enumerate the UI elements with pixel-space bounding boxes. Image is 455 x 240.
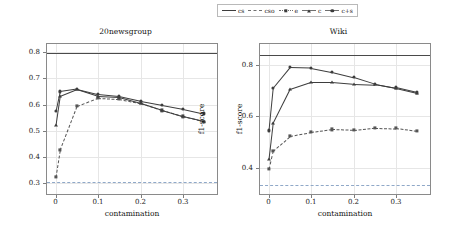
x-axis-tick xyxy=(141,195,142,198)
data-point-e xyxy=(267,167,270,170)
x-tick-label: 0 xyxy=(53,198,57,206)
reference-line-cso xyxy=(260,185,430,186)
x-axis-title-left: contamination xyxy=(46,209,218,218)
data-point-e xyxy=(352,129,355,132)
series-segment-e xyxy=(332,129,353,131)
data-point-c+s xyxy=(267,129,270,132)
triangle-marker-icon xyxy=(302,7,316,15)
x-tick-label: 0 xyxy=(266,198,270,206)
y-tick-label: 0.3 xyxy=(29,179,40,187)
series-segment-e xyxy=(290,132,311,137)
legend-item-c-plus-s: c+s xyxy=(325,7,352,15)
series-segment-c xyxy=(290,82,312,90)
gridline-vertical xyxy=(98,44,99,194)
series-segment-c xyxy=(311,82,332,83)
series-segment-c+s xyxy=(311,68,332,73)
series-segment-c xyxy=(272,89,290,123)
data-point-c+s xyxy=(58,90,61,93)
legend-label-c-plus-s: c+s xyxy=(341,8,352,14)
square-marker-icon xyxy=(279,7,293,15)
series-segment-e xyxy=(375,128,396,130)
legend-label-cs: cs xyxy=(238,8,244,14)
chart-legend: cs cso e c c+s xyxy=(217,4,358,17)
x-axis-title-right: contamination xyxy=(259,209,431,218)
y-axis-labels-left: 0.30.40.50.60.70.8 xyxy=(18,43,43,195)
data-point-c+s xyxy=(288,65,291,68)
series-segment-e xyxy=(77,98,99,107)
legend-label-cso: cso xyxy=(264,8,274,14)
x-axis-tick xyxy=(98,195,99,198)
y-tick-label: 0.5 xyxy=(29,127,40,135)
series-segment-c+s xyxy=(290,67,311,69)
series-segment-e xyxy=(98,98,119,100)
gridline-horizontal xyxy=(47,105,217,106)
data-point-e xyxy=(75,105,78,108)
legend-item-cso: cso xyxy=(248,7,274,15)
series-segment-e xyxy=(311,129,332,133)
series-segment-c xyxy=(162,110,184,117)
x-tick-label: 0.3 xyxy=(390,198,401,206)
data-point-c xyxy=(271,121,275,124)
y-tick-label: 0.6 xyxy=(29,101,40,109)
gridline-horizontal xyxy=(260,65,430,66)
data-point-e xyxy=(373,126,376,129)
x-axis-tick xyxy=(396,195,397,198)
gridline-horizontal xyxy=(47,131,217,132)
dashed-line-icon xyxy=(248,7,262,15)
data-point-c xyxy=(309,80,313,83)
series-segment-c+s xyxy=(162,105,183,110)
data-point-e xyxy=(58,148,61,151)
x-tick-label: 0.2 xyxy=(348,198,359,206)
y-tick-label: 0.7 xyxy=(29,74,40,82)
data-point-e xyxy=(288,134,291,137)
x-axis-tick xyxy=(183,195,184,198)
data-point-c xyxy=(288,88,292,91)
y-tick-label: 0.8 xyxy=(29,48,40,56)
x-tick-label: 0.3 xyxy=(177,198,188,206)
series-segment-e xyxy=(272,136,290,151)
series-segment-c+s xyxy=(272,67,290,88)
series-segment-e xyxy=(353,128,374,131)
data-point-c+s xyxy=(271,86,274,89)
series-segment-c+s xyxy=(332,72,353,78)
chart-title-left: 20newsgroup xyxy=(18,27,233,36)
x-axis-tick xyxy=(56,195,57,198)
x-tick-label: 0.1 xyxy=(305,198,316,206)
y-tick-label: 0.4 xyxy=(242,164,253,172)
solid-line-icon xyxy=(222,7,236,15)
data-point-c xyxy=(54,124,58,127)
series-segment-e xyxy=(396,128,417,132)
data-point-e xyxy=(394,127,397,130)
gridline-horizontal xyxy=(47,157,217,158)
x-axis-tick xyxy=(354,195,355,198)
gridline-vertical xyxy=(396,44,397,194)
chart-panel-wiki: Wiki 0.40.60.8 00.10.20.3 contamination … xyxy=(231,25,446,237)
y-axis-title-right: f1-score xyxy=(235,104,244,135)
gridline-vertical xyxy=(354,44,355,194)
y-axis-title-left: f1-score xyxy=(197,104,206,135)
x-tick-label: 0.1 xyxy=(92,198,103,206)
gridline-horizontal xyxy=(260,168,430,169)
y-tick-label: 0.4 xyxy=(29,153,40,161)
data-point-e xyxy=(309,131,312,134)
data-point-e xyxy=(54,175,57,178)
legend-item-cs: cs xyxy=(222,7,244,15)
x-axis-labels-right: 00.10.20.3 xyxy=(259,195,431,209)
x-axis-labels-left: 00.10.20.3 xyxy=(46,195,218,209)
data-point-e xyxy=(271,149,274,152)
gridline-vertical xyxy=(183,44,184,194)
data-point-e xyxy=(416,130,419,133)
legend-label-e: e xyxy=(295,8,299,14)
chart-panel-20newsgroup: 20newsgroup 0.30.40.50.60.70.8 00.10.20.… xyxy=(18,25,233,237)
data-point-c xyxy=(160,108,164,111)
gridline-horizontal xyxy=(47,78,217,79)
legend-item-c: c xyxy=(302,7,321,15)
gridline-horizontal xyxy=(47,183,217,184)
data-point-e xyxy=(331,128,334,131)
legend-label-c: c xyxy=(318,8,321,14)
legend-item-e: e xyxy=(279,7,299,15)
plot-area-right xyxy=(259,43,431,195)
gridline-horizontal xyxy=(260,116,430,117)
data-point-c xyxy=(352,82,356,85)
series-segment-e xyxy=(59,106,77,150)
